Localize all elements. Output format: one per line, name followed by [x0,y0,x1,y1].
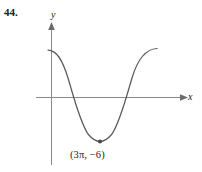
function-curve [48,49,157,142]
x-axis-arrowhead [180,94,188,101]
minimum-point-label: (3π, −6) [70,148,105,161]
y-axis-label: y [51,9,55,20]
figure-container: 44. y x (3π, −6) [0,0,202,172]
graph-canvas [0,0,202,172]
minimum-point-marker [98,139,102,143]
x-axis-label: x [188,91,192,102]
y-axis-arrowhead [48,22,55,30]
